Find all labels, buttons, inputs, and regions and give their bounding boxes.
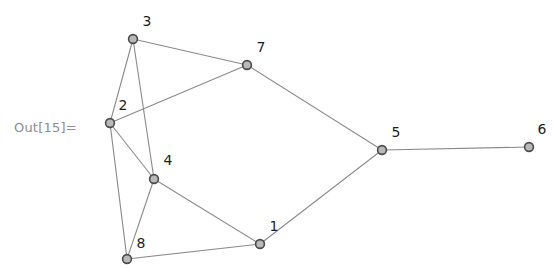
graph-node-7[interactable] [243,61,252,70]
graph-node-4[interactable] [150,175,159,184]
graph-node-label-1: 1 [270,218,279,234]
graph-edge-3-7 [133,39,247,65]
graph-node-3[interactable] [129,35,138,44]
graph-edge-7-5 [247,65,382,150]
graph-edge-4-1 [154,179,260,244]
graph-edge-8-1 [127,244,260,259]
graph-node-label-6: 6 [538,121,547,137]
graph-canvas[interactable]: 12345678 [0,0,554,268]
graph-edges [110,39,529,259]
graph-node-5[interactable] [378,146,387,155]
graph-nodes [106,35,534,264]
graph-node-label-2: 2 [119,97,128,113]
graph-node-label-3: 3 [143,13,152,29]
notebook-output-cell: Out[15]= 12345678 [0,0,554,268]
graph-node-2[interactable] [106,119,115,128]
graph-node-1[interactable] [256,240,265,249]
graph-node-label-4: 4 [164,152,173,168]
graph-node-label-8: 8 [137,235,146,251]
graph-edge-2-8 [110,123,127,259]
graph-node-6[interactable] [525,143,534,152]
graph-edge-2-7 [110,65,247,123]
graph-edge-5-6 [382,147,529,150]
graph-node-labels: 12345678 [119,13,547,251]
graph-node-label-5: 5 [392,124,401,140]
graph-node-label-7: 7 [257,39,266,55]
graph-node-8[interactable] [123,255,132,264]
